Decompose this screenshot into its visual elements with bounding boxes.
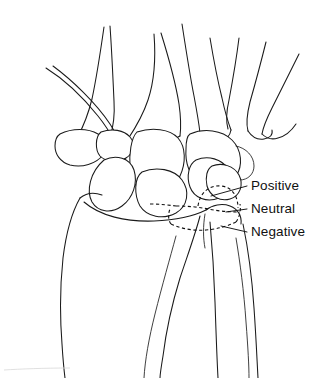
- second-metacarpal-medial-border: [161, 33, 181, 136]
- ulna-group: [204, 205, 259, 378]
- fourth-metacarpal-lateral-border: [182, 24, 200, 133]
- ulna-inner-cortex: [236, 238, 249, 378]
- radius-group: [61, 193, 206, 378]
- variance-labels-group: Positive Neutral Negative: [251, 178, 305, 239]
- fifth-metacarpal-base-ulnar-edge: [262, 124, 296, 139]
- radius-inner-cortex: [144, 236, 176, 378]
- label-positive: Positive: [251, 178, 299, 193]
- scan-artifact-group: [4, 368, 70, 370]
- trapezoid: [96, 130, 133, 161]
- label-negative: Negative: [251, 224, 305, 239]
- label-neutral: Neutral: [251, 201, 295, 216]
- third-metacarpal-medial-border: [78, 27, 104, 136]
- ulna-medial-border: [243, 224, 258, 378]
- distal-radioulnar-joint: [204, 214, 206, 248]
- lunate: [136, 169, 187, 217]
- fourth-metacarpal-medial-border: [210, 38, 231, 130]
- ulnar-head-contour: [206, 205, 241, 224]
- scaphoid: [89, 157, 135, 211]
- fifth-metacarpal-medial-border: [247, 42, 266, 131]
- radius-lateral-border: [61, 198, 80, 378]
- radius-medial-border: [160, 216, 200, 378]
- third-metacarpal-lateral-border: [110, 26, 114, 137]
- wrist-line-drawing: Positive Neutral Negative: [0, 0, 314, 378]
- scan-artifact-mark: [4, 368, 70, 370]
- ulna-lateral-border: [210, 222, 218, 378]
- ulnar-variance-figure: Positive Neutral Negative: [0, 0, 314, 378]
- fifth-metacarpal-ulnar-flare: [262, 54, 299, 134]
- second-metacarpal-lateral-border: [128, 34, 155, 139]
- fifth-metacarpal-lateral-border: [227, 38, 239, 129]
